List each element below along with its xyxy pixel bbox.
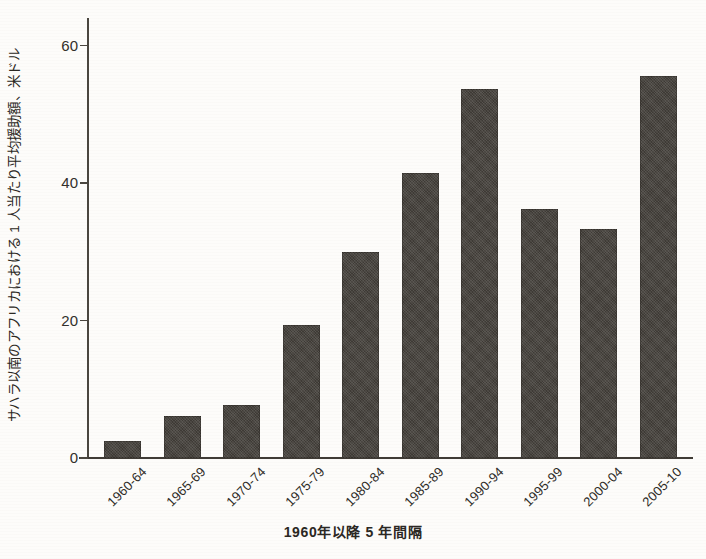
- x-tick-label-2000-04: 2000-04: [580, 464, 625, 509]
- bar-1990-94: [461, 89, 498, 458]
- bar-chart-figure: サハラ以南のアフリカにおける 1 人当たり平均援助額、米ドル 0 20 40 6…: [0, 0, 706, 559]
- y-tick-label-20: 20: [61, 311, 78, 328]
- x-tick-label-1975-79: 1975-79: [282, 464, 327, 509]
- y-tick-label-40: 40: [61, 174, 78, 191]
- y-axis-line: [87, 18, 89, 458]
- x-tick-label-1990-94: 1990-94: [461, 464, 506, 509]
- plot-area: 0 20 40 60 1960-641965-691970-741975-791…: [87, 18, 695, 458]
- bar-1985-89: [402, 173, 439, 458]
- x-tick-label-1995-99: 1995-99: [520, 464, 565, 509]
- bar-1980-84: [342, 252, 379, 458]
- x-tick-label-1980-84: 1980-84: [342, 464, 387, 509]
- x-tick-label-1970-74: 1970-74: [223, 464, 268, 509]
- bar-2000-04: [580, 229, 617, 458]
- bar-1965-69: [164, 416, 201, 458]
- y-tick-label-60: 60: [61, 36, 78, 53]
- x-tick-label-1960-64: 1960-64: [104, 464, 149, 509]
- x-axis-title: 1960年以降 5 年間隔: [0, 521, 706, 541]
- bar-1970-74: [223, 405, 260, 458]
- bar-1975-79: [283, 325, 320, 458]
- bar-1960-64: [104, 441, 141, 458]
- y-tick-label-0: 0: [70, 449, 78, 466]
- x-tick-label-1985-89: 1985-89: [401, 464, 446, 509]
- bar-2005-10: [640, 76, 677, 458]
- bar-1995-99: [521, 209, 558, 458]
- x-tick-label-2005-10: 2005-10: [639, 464, 684, 509]
- x-tick-label-1965-69: 1965-69: [163, 464, 208, 509]
- y-axis-title: サハラ以南のアフリカにおける 1 人当たり平均援助額、米ドル: [0, 0, 26, 470]
